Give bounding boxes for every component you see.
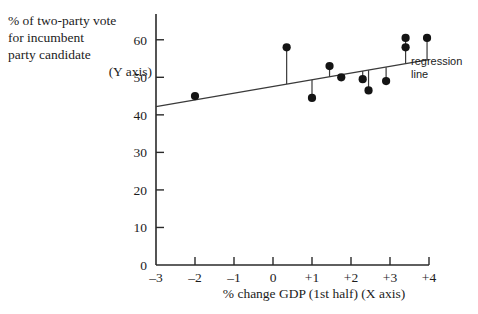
y-tick-label: 30 — [134, 145, 148, 160]
y-tick-label: 60 — [134, 33, 148, 48]
data-point — [364, 86, 372, 94]
x-axis-ticks: –3–2–10+1+2+3+4 — [148, 257, 436, 285]
y-tick-label: 50 — [134, 70, 148, 85]
x-tick-label: +1 — [305, 270, 319, 285]
data-point — [402, 43, 410, 51]
y-tick-label: 0 — [140, 258, 147, 273]
data-point — [337, 73, 345, 81]
y-axis-ticks: 0102030405060 — [134, 33, 165, 273]
data-point — [191, 92, 199, 100]
x-tick-label: –1 — [226, 270, 241, 285]
x-tick-label: –3 — [148, 270, 163, 285]
data-point — [325, 62, 333, 70]
x-tick-label: +4 — [422, 270, 437, 285]
x-axis-title: % change GDP (1st half) (X axis) — [150, 286, 478, 302]
chart-figure: % of two-party vote for incumbent party … — [0, 0, 478, 314]
x-tick-label: –2 — [187, 270, 202, 285]
y-tick-label: 20 — [134, 183, 148, 198]
data-point — [382, 77, 390, 85]
annotation-line-1: regression — [411, 55, 462, 68]
x-tick-label: 0 — [270, 270, 277, 285]
data-point — [283, 43, 291, 51]
data-point — [308, 94, 316, 102]
axes-group — [156, 14, 429, 265]
data-point — [359, 75, 367, 83]
annotation-line-2: line — [411, 68, 462, 81]
y-tick-label: 40 — [134, 108, 148, 123]
regression-line-annotation: regression line — [411, 55, 462, 81]
y-tick-label: 10 — [134, 220, 148, 235]
data-points-group — [191, 34, 431, 102]
x-tick-label: +3 — [383, 270, 398, 285]
data-point — [423, 34, 431, 42]
scatter-plot-canvas: 0102030405060 –3–2–10+1+2+3+4 — [0, 0, 478, 314]
x-tick-label: +2 — [344, 270, 358, 285]
data-point — [402, 34, 410, 42]
